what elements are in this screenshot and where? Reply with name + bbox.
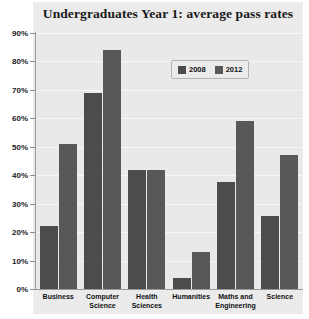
bar-2012-science xyxy=(280,155,298,289)
y-axis-tick xyxy=(30,118,35,119)
y-axis-tick-label: 40% xyxy=(0,171,28,180)
x-axis-label-science: Science xyxy=(258,293,302,302)
y-axis-tick-label: 60% xyxy=(0,114,28,123)
y-axis-tick xyxy=(30,33,35,34)
bar-2008-science xyxy=(261,216,279,289)
chart-legend: 2008 2012 xyxy=(171,60,249,79)
bar-2012-health-sciences xyxy=(147,170,165,289)
y-axis-tick xyxy=(30,204,35,205)
bar-2012-humanities xyxy=(192,252,210,289)
bar-2008-business xyxy=(40,226,58,289)
y-axis-tick-label: 90% xyxy=(0,29,28,38)
x-axis-label-maths-and-engineering: Maths andEngineering xyxy=(213,293,257,310)
x-axis-line xyxy=(35,289,303,290)
y-axis-tick xyxy=(30,175,35,176)
bar-2008-humanities xyxy=(173,278,191,289)
bar-2012-business xyxy=(59,144,77,289)
y-axis-line xyxy=(35,32,36,290)
legend-entry-2008: 2008 xyxy=(178,65,206,74)
legend-label-2008: 2008 xyxy=(189,65,206,74)
y-axis-tick-label: 10% xyxy=(0,257,28,266)
y-axis-tick xyxy=(30,61,35,62)
bar-2008-health-sciences xyxy=(128,170,146,289)
gridline xyxy=(36,118,302,119)
y-axis-tick-label: 50% xyxy=(0,143,28,152)
y-axis-tick xyxy=(30,232,35,233)
legend-label-2012: 2012 xyxy=(226,65,243,74)
gridline xyxy=(36,33,302,34)
y-axis-tick xyxy=(30,261,35,262)
y-axis-tick xyxy=(30,289,35,290)
y-axis-tick-label: 0% xyxy=(0,285,28,294)
y-axis-tick-label: 80% xyxy=(0,57,28,66)
y-axis-tick xyxy=(30,147,35,148)
bar-2012-maths-and-engineering xyxy=(236,121,254,289)
bar-2008-maths-and-engineering xyxy=(217,182,235,289)
x-axis-label-health-sciences: HealthSciences xyxy=(125,293,169,310)
y-axis-tick-label: 30% xyxy=(0,200,28,209)
legend-entry-2012: 2012 xyxy=(215,65,243,74)
chart-title: Undergraduates Year 1: average pass rate… xyxy=(33,6,303,22)
x-axis-label-humanities: Humanities xyxy=(169,293,213,302)
x-axis-label-computer-science: ComputerScience xyxy=(80,293,124,310)
legend-swatch-icon-2012 xyxy=(215,66,223,74)
gridline xyxy=(36,61,302,62)
y-axis-tick-label: 70% xyxy=(0,86,28,95)
bar-2012-computer-science xyxy=(103,50,121,289)
chart-container: Undergraduates Year 1: average pass rate… xyxy=(0,0,309,319)
y-axis-tick-label: 20% xyxy=(0,228,28,237)
plot-area xyxy=(36,33,302,289)
x-axis-label-business: Business xyxy=(36,293,80,302)
y-axis-tick xyxy=(30,90,35,91)
legend-swatch-icon-2008 xyxy=(178,66,186,74)
bar-2008-computer-science xyxy=(84,93,102,289)
gridline xyxy=(36,90,302,91)
